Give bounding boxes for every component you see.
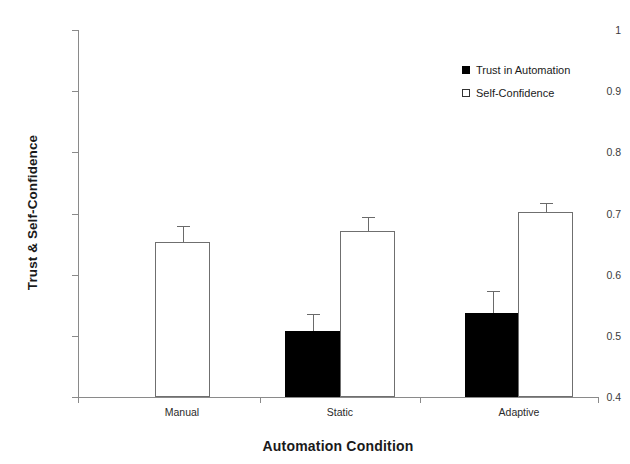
x-tick-label: Static: [265, 406, 415, 418]
error-bar-stem: [368, 217, 369, 230]
legend-swatch-open-icon: [462, 89, 470, 97]
error-bar-stem: [183, 226, 184, 242]
error-bar-stem: [313, 314, 314, 331]
error-bar-cap: [540, 203, 553, 204]
legend-item-self-confidence: Self-Confidence: [462, 83, 622, 102]
bar-manual-self-confidence: [155, 242, 210, 397]
error-bar-cap: [307, 314, 320, 315]
legend-item-trust: Trust in Automation: [462, 60, 622, 79]
chart-legend: Trust in Automation Self-Confidence: [462, 60, 622, 106]
error-bar-cap: [487, 291, 500, 292]
legend-label-self-confidence: Self-Confidence: [476, 87, 554, 99]
y-axis-title: Trust & Self-Confidence: [25, 103, 40, 323]
x-tick-label: Adaptive: [444, 406, 594, 418]
error-bar-cap: [177, 226, 190, 227]
bar-chart-figure: Trust & Self-Confidence Automation Condi…: [0, 0, 630, 464]
legend-label-trust: Trust in Automation: [476, 64, 570, 76]
x-tick-mark: [598, 397, 599, 403]
bar-static-trust: [285, 331, 340, 397]
x-tick-label: Manual: [107, 406, 257, 418]
error-bar-cap: [362, 217, 375, 218]
legend-swatch-filled-icon: [462, 66, 470, 74]
x-axis-title: Automation Condition: [78, 438, 598, 454]
error-bar-stem: [493, 291, 494, 312]
bar-static-self-confidence: [340, 231, 395, 397]
bar-adaptive-trust: [465, 313, 520, 397]
bar-adaptive-self-confidence: [518, 212, 573, 397]
error-bar-stem: [546, 203, 547, 212]
